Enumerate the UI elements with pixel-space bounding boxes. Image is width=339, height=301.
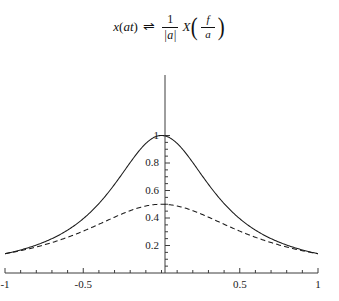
- y-tick-label: 0.8: [117, 156, 159, 168]
- x-tick-label: -1: [0, 278, 25, 290]
- formula-rhs-numerator: f: [205, 14, 212, 26]
- x-tick-label: 1: [298, 278, 338, 290]
- figure-page: x(at) ⇌ 1 |a| X ( f a ): [0, 0, 339, 301]
- x-axis-ticks: [5, 268, 318, 273]
- y-tick-label: 1: [117, 129, 159, 141]
- curve-narrow-pulse-solid: [5, 136, 318, 254]
- formula-rhs-fraction: f a: [201, 14, 215, 40]
- harpoons-icon: ⇌: [143, 20, 155, 34]
- plot-figure: -1-0.50.510.20.40.60.81: [0, 55, 339, 301]
- formula-lhs-close-paren: ): [134, 19, 138, 35]
- formula-rhs-close-paren: ): [218, 15, 225, 38]
- plot-canvas: [0, 55, 339, 301]
- y-tick-label: 0.4: [117, 211, 159, 223]
- formula-caption: x(at) ⇌ 1 |a| X ( f a ): [0, 6, 339, 48]
- formula-expression: x(at) ⇌ 1 |a| X ( f a ): [113, 13, 226, 41]
- formula-rhs-denominator: a: [203, 29, 213, 41]
- formula-coefficient-fraction: 1 |a|: [162, 13, 179, 41]
- formula-rhs-open-paren: (: [191, 15, 198, 38]
- y-tick-label: 0.2: [117, 239, 159, 251]
- formula-coefficient-numerator: 1: [165, 13, 175, 26]
- x-tick-label: -0.5: [63, 278, 103, 290]
- curve-wide-pulse-dashed: [5, 204, 318, 253]
- formula-coefficient-denominator: |a|: [162, 29, 179, 42]
- formula-rhs-function: X: [182, 19, 190, 35]
- axes-group: [5, 75, 318, 273]
- x-tick-label: 0.5: [220, 278, 260, 290]
- y-tick-label: 0.6: [117, 184, 159, 196]
- y-axis-ticks: [165, 136, 170, 267]
